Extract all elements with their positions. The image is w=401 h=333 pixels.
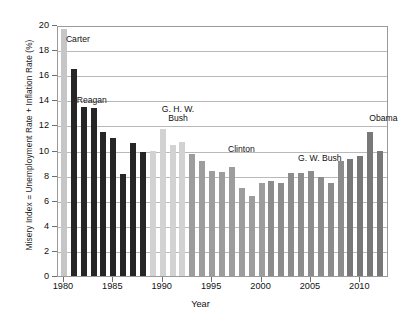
x-tick-label: 1985	[90, 281, 134, 291]
x-tick-mark	[63, 277, 64, 282]
x-tick-mark	[359, 277, 360, 282]
x-tick-mark	[162, 277, 163, 282]
x-tick-label: 2010	[337, 281, 381, 291]
x-tick-label: 2000	[239, 281, 283, 291]
x-tick-mark	[310, 277, 311, 282]
x-axis-ticks: 1980198519901995200020052010	[0, 0, 401, 333]
x-tick-mark	[112, 277, 113, 282]
x-tick-label: 2005	[288, 281, 332, 291]
x-tick-label: 1995	[189, 281, 233, 291]
x-axis-title: Year	[0, 299, 401, 309]
misery-index-bar-chart: Misery Index = Unemployment Rate + Infla…	[0, 0, 401, 333]
x-tick-label: 1990	[140, 281, 184, 291]
x-tick-mark	[261, 277, 262, 282]
x-tick-mark	[211, 277, 212, 282]
x-tick-label: 1980	[41, 281, 85, 291]
